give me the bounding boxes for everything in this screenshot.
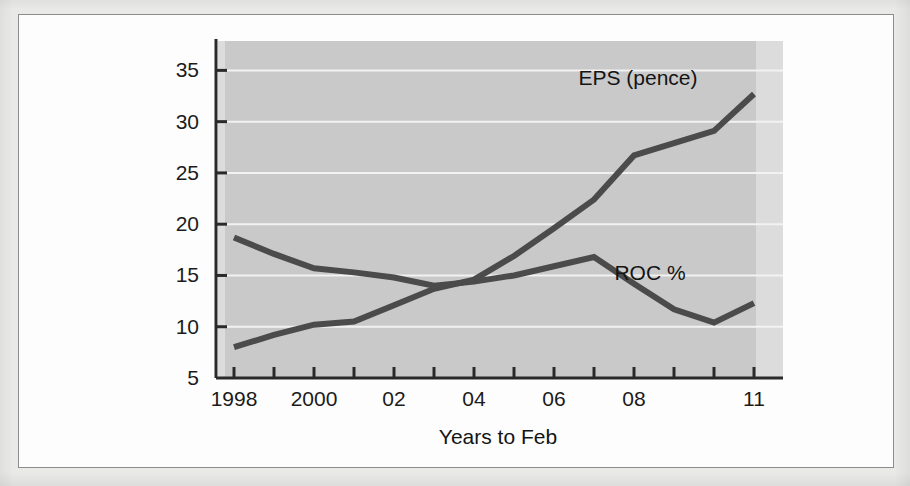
- x-axis-tick-label: 02: [382, 387, 405, 410]
- screenshot-root: 5101520253035 199820000204060811 EPS (pe…: [0, 0, 910, 486]
- x-axis-title: Years to Feb: [439, 425, 557, 448]
- x-axis-tick-label: 08: [622, 387, 645, 410]
- x-axis-tick-labels: 199820000204060811: [211, 387, 765, 410]
- line-chart: 5101520253035 199820000204060811 EPS (pe…: [19, 15, 895, 469]
- y-axis-tick-label: 25: [176, 161, 199, 184]
- y-axis-tick-label: 20: [176, 212, 199, 235]
- y-axis-tick-labels: 5101520253035: [176, 58, 199, 389]
- x-axis-tick-label: 06: [542, 387, 565, 410]
- chart-figure-frame: 5101520253035 199820000204060811 EPS (pe…: [18, 14, 894, 468]
- x-axis-tick-label: 1998: [211, 387, 258, 410]
- x-axis-tick-label: 11: [743, 387, 765, 410]
- y-axis-tick-label: 35: [176, 58, 199, 81]
- x-axis-tick-label: 04: [462, 387, 486, 410]
- series-label: EPS (pence): [578, 66, 697, 89]
- y-axis-tick-label: 5: [187, 366, 199, 389]
- x-axis-tick-label: 2000: [291, 387, 338, 410]
- y-axis-tick-label: 10: [176, 315, 199, 338]
- series-label: ROC %: [614, 261, 685, 284]
- y-axis-tick-label: 30: [176, 110, 199, 133]
- y-axis-tick-label: 15: [176, 263, 199, 286]
